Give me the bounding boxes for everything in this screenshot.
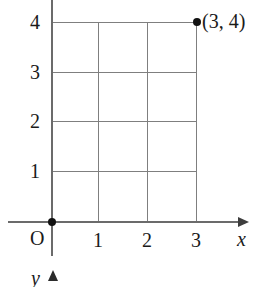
y-axis-label: y bbox=[31, 268, 40, 287]
x-tick-label-2: 2 bbox=[138, 230, 156, 250]
arrow-right-icon bbox=[238, 217, 249, 227]
x-tick-label-1: 1 bbox=[89, 230, 107, 250]
origin-label: O bbox=[30, 228, 44, 248]
x-axis-line bbox=[8, 221, 241, 223]
data-point-label: (3, 4) bbox=[202, 11, 245, 31]
gridline-horizontal-y2 bbox=[51, 121, 197, 122]
data-point-dot-icon bbox=[193, 18, 201, 26]
gridline-vertical-x2 bbox=[147, 22, 148, 222]
gridline-horizontal-y1 bbox=[51, 171, 197, 172]
gridline-vertical-x1 bbox=[98, 22, 99, 222]
gridline-vertical-x3 bbox=[196, 22, 197, 222]
x-tick-label-3: 3 bbox=[187, 230, 205, 250]
coordinate-grid-figure: 4 3 2 1 1 2 3 O x (3, 4) y bbox=[0, 0, 262, 287]
y-tick-label-4: 4 bbox=[26, 12, 44, 32]
y-tick-label-1: 1 bbox=[26, 161, 44, 181]
arrow-up-icon bbox=[48, 270, 58, 281]
origin-dot-icon bbox=[48, 218, 56, 226]
gridline-horizontal-y4 bbox=[51, 22, 197, 23]
gridline-horizontal-y3 bbox=[51, 72, 197, 73]
x-axis-label: x bbox=[237, 229, 246, 249]
y-tick-label-3: 3 bbox=[26, 62, 44, 82]
y-tick-label-2: 2 bbox=[26, 111, 44, 131]
